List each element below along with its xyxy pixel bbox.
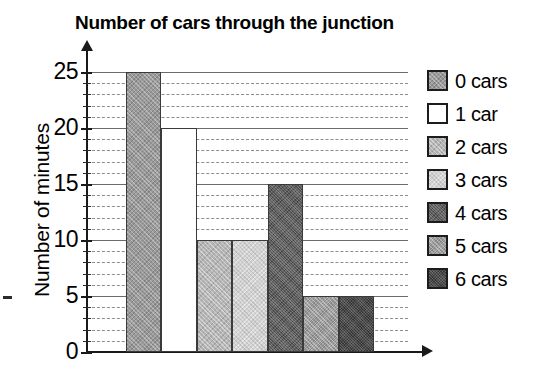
- legend-item[interactable]: 3 cars: [427, 163, 533, 196]
- legend-item[interactable]: 5 cars: [427, 229, 533, 262]
- bar-group: [126, 0, 374, 381]
- legend-swatch-icon: [427, 70, 448, 91]
- legend-item[interactable]: 2 cars: [427, 130, 533, 163]
- y-axis-minor-tick: [83, 195, 91, 196]
- y-axis-minor-tick: [83, 173, 91, 174]
- legend-item[interactable]: 0 cars: [427, 64, 533, 97]
- legend-label: 2 cars: [455, 137, 507, 157]
- bar-2-cars[interactable]: [197, 240, 232, 352]
- legend-label: 1 car: [455, 104, 497, 124]
- legend-item[interactable]: 1 car: [427, 97, 533, 130]
- y-axis-tick-label: 10: [38, 228, 78, 251]
- y-axis-minor-tick: [83, 341, 91, 342]
- legend-label: 6 cars: [455, 269, 507, 289]
- y-axis-tick-label: 0: [38, 340, 78, 363]
- y-axis-major-tick: [81, 128, 92, 130]
- y-axis-minor-tick: [83, 218, 91, 219]
- legend-swatch-icon: [427, 202, 448, 223]
- y-axis-minor-tick: [83, 330, 91, 331]
- y-axis-minor-tick: [83, 94, 91, 95]
- legend-item[interactable]: 4 cars: [427, 196, 533, 229]
- bar-6-cars[interactable]: [339, 296, 374, 352]
- legend-label: 5 cars: [455, 236, 507, 256]
- y-axis-tick-label: 20: [38, 116, 78, 139]
- scan-artifact: [3, 296, 12, 299]
- legend-item[interactable]: 6 cars: [427, 262, 533, 295]
- y-axis-minor-tick: [83, 106, 91, 107]
- y-axis-major-tick: [81, 296, 92, 298]
- y-axis-major-tick: [81, 72, 92, 74]
- legend-swatch-icon: [427, 169, 448, 190]
- y-axis-tick-label: 15: [38, 172, 78, 195]
- y-axis-minor-tick: [83, 274, 91, 275]
- legend-swatch-icon: [427, 235, 448, 256]
- bar-5-cars[interactable]: [303, 296, 338, 352]
- x-axis-arrow-icon: [422, 345, 433, 357]
- y-axis-tick-label: 25: [38, 60, 78, 83]
- y-axis-minor-tick: [83, 285, 91, 286]
- y-axis-minor-tick: [83, 229, 91, 230]
- legend: 0 cars1 car2 cars3 cars4 cars5 cars6 car…: [427, 64, 533, 295]
- y-axis-minor-tick: [83, 318, 91, 319]
- y-axis-major-tick: [81, 240, 92, 242]
- y-axis-major-tick: [81, 184, 92, 186]
- legend-label: 3 cars: [455, 170, 507, 190]
- y-axis-tick-labels: 0510152025: [32, 0, 78, 381]
- y-axis-arrow-icon: [81, 40, 93, 51]
- legend-swatch-icon: [427, 136, 448, 157]
- y-axis-minor-tick: [83, 206, 91, 207]
- y-axis-minor-tick: [83, 150, 91, 151]
- bar-1-car[interactable]: [161, 128, 196, 352]
- y-axis-minor-tick: [83, 251, 91, 252]
- legend-swatch-icon: [427, 103, 448, 124]
- bar-4-cars[interactable]: [268, 184, 303, 352]
- y-axis-minor-tick: [83, 139, 91, 140]
- y-axis-minor-tick: [83, 307, 91, 308]
- y-axis-minor-tick: [83, 83, 91, 84]
- legend-swatch-icon: [427, 268, 448, 289]
- bar-3-cars[interactable]: [232, 240, 267, 352]
- legend-label: 0 cars: [455, 71, 507, 91]
- legend-label: 4 cars: [455, 203, 507, 223]
- y-axis-tick-label: 5: [38, 284, 78, 307]
- bar-0-cars[interactable]: [126, 72, 161, 352]
- y-axis-minor-tick: [83, 117, 91, 118]
- y-axis-minor-tick: [83, 162, 91, 163]
- y-axis-minor-tick: [83, 262, 91, 263]
